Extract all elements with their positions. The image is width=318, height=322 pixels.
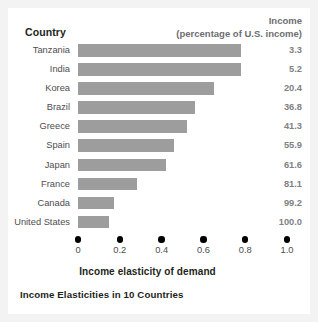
axis-tick-label: 1.0 (267, 245, 307, 255)
bar (78, 159, 166, 172)
income-value: 36.8 (250, 102, 302, 112)
chart-row: Korea20.4 (8, 80, 310, 99)
country-label: Japan (8, 160, 70, 170)
income-value: 5.2 (250, 64, 302, 74)
chart-row: Brazil36.8 (8, 99, 310, 118)
chart-row: Greece41.3 (8, 118, 310, 137)
figure-inner: Country Income (percentage of U.S. incom… (8, 8, 310, 314)
bar (78, 139, 174, 152)
income-value: 81.1 (250, 179, 302, 189)
chart-row: United States100.0 (8, 214, 310, 233)
income-value: 20.4 (250, 83, 302, 93)
bar (78, 120, 187, 133)
bar (78, 82, 214, 95)
x-axis-title: Income elasticity of demand (8, 266, 287, 277)
income-value: 55.9 (250, 140, 302, 150)
figure-card: Country Income (percentage of U.S. incom… (8, 8, 310, 314)
x-axis: 00.20.40.60.81.0 (78, 236, 287, 266)
country-label: Greece (8, 121, 70, 131)
column-header-income-line1: Income (112, 15, 302, 28)
country-label: Korea (8, 83, 70, 93)
country-label: Tanzania (8, 45, 70, 55)
country-label: Spain (8, 140, 70, 150)
chart-rows: Tanzania3.3India5.2Korea20.4Brazil36.8Gr… (8, 42, 310, 233)
bar (78, 63, 241, 76)
bar (78, 101, 195, 114)
column-header-income-line2: (percentage of U.S. income) (112, 28, 302, 41)
country-label: United States (8, 217, 70, 227)
axis-tick-dot (284, 236, 291, 243)
column-header-income: Income (percentage of U.S. income) (112, 15, 302, 40)
axis-tick-label: 0.4 (142, 245, 182, 255)
column-header-country: Country (25, 26, 66, 38)
income-value: 3.3 (250, 45, 302, 55)
figure-caption: Income Elasticities in 10 Countries (20, 289, 183, 300)
country-label: India (8, 64, 70, 74)
chart-row: Spain55.9 (8, 137, 310, 156)
bar (78, 216, 109, 229)
country-label: Brazil (8, 102, 70, 112)
chart-row: France81.1 (8, 176, 310, 195)
income-value: 99.2 (250, 198, 302, 208)
axis-tick-label: 0 (58, 245, 98, 255)
axis-tick-dot (242, 236, 249, 243)
chart-row: Japan61.6 (8, 157, 310, 176)
country-label: Canada (8, 198, 70, 208)
income-value: 61.6 (250, 160, 302, 170)
axis-tick-dot (158, 236, 165, 243)
axis-tick-label: 0.8 (225, 245, 265, 255)
chart-row: Tanzania3.3 (8, 42, 310, 61)
bar (78, 44, 241, 57)
axis-tick-dot (200, 236, 207, 243)
axis-tick-label: 0.6 (183, 245, 223, 255)
country-label: France (8, 179, 70, 189)
chart-row: Canada99.2 (8, 195, 310, 214)
axis-tick-dot (75, 236, 82, 243)
chart-row: India5.2 (8, 61, 310, 80)
bar (78, 178, 137, 191)
income-value: 100.0 (250, 217, 302, 227)
bar (78, 197, 114, 210)
axis-tick-dot (117, 236, 124, 243)
axis-tick-label: 0.2 (100, 245, 140, 255)
income-value: 41.3 (250, 121, 302, 131)
